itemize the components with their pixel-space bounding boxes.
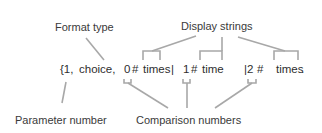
hash-2: # (257, 63, 263, 75)
comparison-number-0: 0 (124, 63, 130, 75)
format-type-label: Format type (55, 21, 114, 33)
pattern-format-type: choice, (79, 63, 115, 75)
comparison-number-1: 1 (183, 63, 189, 75)
comparison-bracket-1 (183, 79, 190, 83)
comparison-bracket-0 (124, 79, 131, 83)
comparison-bracket-2 (248, 79, 256, 83)
display-string-bracket-2 (274, 51, 298, 60)
display-string-0: times (143, 63, 170, 75)
pattern-open: {1, (60, 63, 73, 75)
comparison-connector-2 (215, 83, 252, 108)
display-string-bracket-1 (200, 51, 222, 60)
format-type-connector (86, 38, 104, 60)
display-string-2: times (276, 63, 303, 75)
parameter-number-label: Parameter number (15, 114, 107, 126)
display-strings-connector-2 (238, 37, 285, 51)
display-strings-label: Display strings (181, 20, 253, 32)
parameter-number-connector (62, 82, 66, 103)
pipe-1-and-comparison-number-2: |2 (244, 63, 253, 75)
display-strings-connector-0 (152, 36, 196, 51)
display-string-1: time (202, 63, 224, 75)
pattern-close: . (301, 63, 304, 75)
hash-0: # (132, 63, 138, 75)
comparison-connector-0 (128, 83, 168, 108)
display-string-bracket-0 (143, 51, 160, 60)
pipe-0: | (171, 63, 174, 75)
comparison-numbers-label: Comparison numbers (136, 114, 241, 126)
hash-1: # (191, 63, 197, 75)
